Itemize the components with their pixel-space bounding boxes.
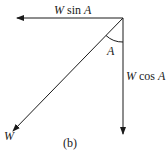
angle-arc	[106, 36, 123, 43]
angle-label: A	[107, 45, 114, 57]
resultant-arrow	[13, 18, 123, 131]
resultant-label: W	[4, 130, 14, 142]
vertical-component-label: W cos A	[126, 70, 165, 82]
figure-caption: (b)	[63, 137, 77, 149]
horizontal-component-label: W sin A	[54, 4, 91, 16]
